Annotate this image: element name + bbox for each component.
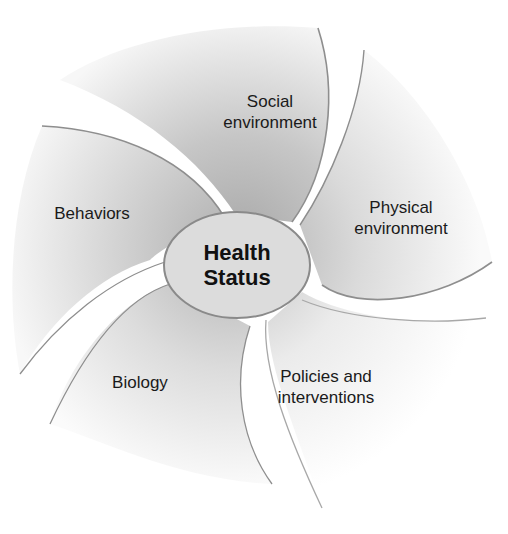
center-line: Health [187,240,287,265]
label-policies-interventions: Policies and interventions [264,366,388,408]
label-social-environment: Social environment [210,91,330,133]
label-biology: Biology [100,372,180,393]
label-behaviors: Behaviors [42,203,142,224]
label-line: interventions [264,387,388,408]
label-line: Policies and [264,366,388,387]
label-physical-environment: Physical environment [338,197,464,239]
center-label-health-status: Health Status [187,240,287,290]
health-determinants-diagram: Social environment Physical environment … [0,0,508,534]
label-line: environment [210,112,330,133]
label-line: Behaviors [42,203,142,224]
label-line: environment [338,218,464,239]
label-line: Social [210,91,330,112]
label-line: Biology [100,372,180,393]
label-line: Physical [338,197,464,218]
center-line: Status [187,265,287,290]
